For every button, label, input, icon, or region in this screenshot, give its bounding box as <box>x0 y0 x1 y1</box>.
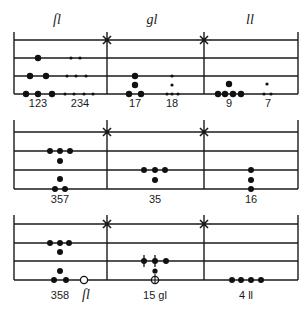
group-label: 7 <box>265 97 271 109</box>
dot <box>57 240 63 246</box>
dot <box>258 277 264 283</box>
dot <box>74 74 77 77</box>
dot <box>57 268 63 274</box>
dot <box>84 74 87 77</box>
dot <box>170 83 173 86</box>
dot <box>238 91 244 97</box>
dot <box>62 186 68 192</box>
column-headers: ſlglll <box>53 12 254 27</box>
dot <box>152 167 158 173</box>
dot <box>43 73 49 79</box>
group-label: 15 gl <box>143 289 167 301</box>
staff-2: 3573516 <box>14 120 298 205</box>
star-center <box>202 38 206 42</box>
dot <box>51 277 57 283</box>
dot <box>66 240 72 246</box>
dot <box>262 92 265 95</box>
dot <box>215 91 221 97</box>
group-label: 234 <box>71 97 89 109</box>
dot <box>162 167 168 173</box>
dot <box>57 249 63 255</box>
dot <box>248 186 254 192</box>
star-center <box>202 222 206 226</box>
dot <box>67 148 73 154</box>
dot <box>35 55 41 61</box>
dot <box>176 92 179 95</box>
star-center <box>202 130 206 134</box>
group-label: 35 <box>149 193 161 205</box>
dot <box>132 73 138 79</box>
dot <box>248 277 254 283</box>
dot <box>57 148 63 154</box>
star-center <box>105 130 109 134</box>
group-label: 358 <box>51 289 69 301</box>
group-label: 18 <box>166 97 178 109</box>
dot <box>27 73 33 79</box>
dot <box>49 91 55 97</box>
column-header: ll <box>246 12 254 27</box>
group-label: ſl <box>82 287 90 302</box>
dot <box>265 82 268 85</box>
dot <box>165 92 168 95</box>
dot <box>52 186 58 192</box>
dot <box>91 92 94 95</box>
star-center <box>105 38 109 42</box>
dot <box>82 92 85 95</box>
group-label: 9 <box>226 97 232 109</box>
dot <box>132 82 138 88</box>
dot <box>63 277 69 283</box>
dot <box>152 177 158 183</box>
dot <box>63 92 66 95</box>
dot <box>152 268 157 273</box>
star-center <box>105 222 109 226</box>
staff-1: 123234171897 <box>14 32 298 109</box>
dot <box>65 74 68 77</box>
dot <box>248 167 254 173</box>
dot <box>57 176 63 182</box>
dot <box>47 148 53 154</box>
dot <box>57 158 63 164</box>
group-label: 123 <box>29 97 47 109</box>
dot <box>170 74 173 77</box>
staff-3: 358ſl15 gl4 ll <box>14 215 298 302</box>
group-label: 4 ll <box>239 289 253 301</box>
dot <box>141 167 147 173</box>
column-header: gl <box>147 12 158 27</box>
dot <box>72 92 75 95</box>
dot <box>238 277 244 283</box>
dot <box>47 240 53 246</box>
dot <box>170 92 173 95</box>
dot <box>269 92 272 95</box>
dot <box>78 56 81 59</box>
dot <box>163 258 169 264</box>
column-header: ſl <box>53 12 61 27</box>
open-circle-icon <box>80 276 87 283</box>
group-label: 16 <box>245 193 257 205</box>
group-label: 357 <box>51 193 69 205</box>
dot <box>229 277 235 283</box>
staves: 1232341718973573516358ſl15 gl4 ll <box>14 32 298 302</box>
group-label: 17 <box>129 97 141 109</box>
dot <box>226 81 232 87</box>
dot <box>69 56 72 59</box>
dot <box>248 177 254 183</box>
notation-diagram: ſlglll 1232341718973573516358ſl15 gl4 ll <box>0 0 305 318</box>
